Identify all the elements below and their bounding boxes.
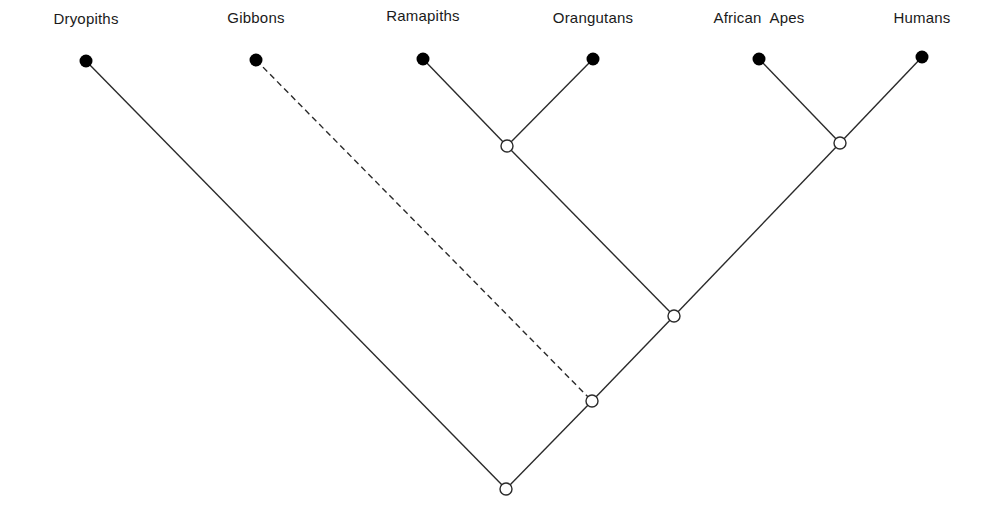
branch-ramapiths-to-n-ramapith-orang xyxy=(423,59,507,146)
leaf-dot-ramapiths xyxy=(417,53,430,66)
label-gibbons: Gibbons xyxy=(227,9,284,26)
branch-african-apes-to-n-afape-human xyxy=(759,59,840,143)
cladogram: Dryopiths Gibbons Ramapiths Orangutans A… xyxy=(0,0,1005,521)
branch-n-ramapith-orang-to-n-great-apes xyxy=(507,146,674,316)
node-n-root xyxy=(500,483,512,495)
label-dryopiths: Dryopiths xyxy=(53,10,118,27)
taxon-dots xyxy=(80,51,929,68)
leaf-dot-gibbons xyxy=(250,54,263,67)
label-orangutans: Orangutans xyxy=(553,9,633,26)
branch-orangutans-to-n-ramapith-orang xyxy=(507,59,593,146)
label-humans: Humans xyxy=(893,9,950,26)
branch-lines xyxy=(86,57,922,489)
leaf-dot-humans xyxy=(916,51,929,64)
node-n-hominoids xyxy=(586,395,598,407)
node-n-ramapith-orang xyxy=(501,140,513,152)
leaf-dot-african-apes xyxy=(753,53,766,66)
node-n-great-apes xyxy=(668,310,680,322)
branch-n-hominoids-to-n-root xyxy=(506,401,592,489)
node-n-afape-human xyxy=(834,137,846,149)
branch-n-great-apes-to-n-hominoids xyxy=(592,316,674,401)
cladogram-svg xyxy=(0,0,1005,521)
branch-humans-to-n-afape-human xyxy=(840,57,922,143)
label-african-apes: African Apes xyxy=(714,9,805,26)
branch-dryopiths-to-n-root xyxy=(86,61,506,489)
leaf-dot-orangutans xyxy=(587,53,600,66)
leaf-dot-dryopiths xyxy=(80,55,93,68)
label-ramapiths: Ramapiths xyxy=(386,7,460,24)
branch-n-afape-human-to-n-great-apes xyxy=(674,143,840,316)
